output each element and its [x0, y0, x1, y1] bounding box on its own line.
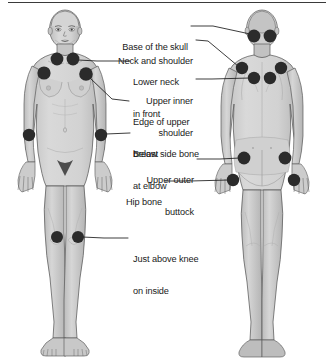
label-edge-upper-breast-line1: Edge of upper [133, 117, 223, 128]
label-group: Base of the skull Neck and shoulder Lowe… [0, 0, 334, 363]
diagram-canvas: Base of the skull Neck and shoulder Lowe… [0, 0, 334, 363]
label-just-above-knee-on-inside: Just above knee on inside [133, 233, 225, 318]
label-hip-bone-line1: Hip bone [102, 197, 162, 208]
label-hip-bone: Hip bone [102, 176, 162, 229]
label-just-above-knee-line1: Just above knee [133, 254, 225, 265]
label-just-above-knee-line2: on inside [133, 286, 225, 297]
